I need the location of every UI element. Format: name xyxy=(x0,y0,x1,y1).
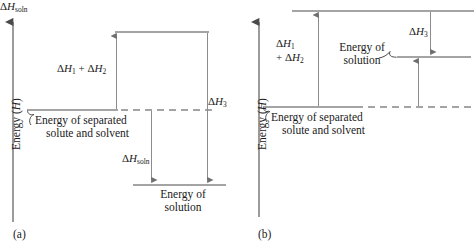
label-solution-a-line2: solution xyxy=(164,201,201,213)
label-solution-a-line1: Energy of xyxy=(160,188,205,200)
label-solution-b-line2: solution xyxy=(343,54,380,66)
panel-tag-a: (a) xyxy=(13,228,26,241)
label-separated-a: Energy of separatedsolute and solvent xyxy=(35,114,129,140)
energy-level-figure: Energy (H) ΔH1 + ΔH2 ΔH3 ΔHsoln Energy o… xyxy=(0,0,475,251)
label-dh1-dh2-a: ΔH1 + ΔH2 xyxy=(57,62,106,76)
label-separated-b: Energy of separatedsolute and solvent xyxy=(271,111,365,137)
label-separated-a-line2: solute and solvent xyxy=(35,127,129,140)
label-dh3-b: ΔH3 xyxy=(409,25,428,39)
label-separated-b-line1: Energy of separated xyxy=(271,111,363,123)
label-solution-b-line1: Energy of xyxy=(339,41,384,53)
energy-axis-label-a: Energy (H) xyxy=(10,98,22,150)
label-separated-a-line1: Energy of separated xyxy=(35,114,127,126)
label-separated-b-line2: solute and solvent xyxy=(271,124,365,137)
label-solution-a: Energy ofsolution xyxy=(153,188,213,214)
label-dhsoln-a: ΔHsoln xyxy=(122,152,149,166)
label-dh3-a: ΔH3 xyxy=(208,95,227,109)
energy-axis-label-b: Energy (H) xyxy=(256,98,268,150)
panel-tag-b: (b) xyxy=(258,228,271,241)
label-dhsoln-b: ΔHsoln xyxy=(0,0,27,14)
label-dh1-dh2-b: ΔH1+ ΔH2 xyxy=(276,37,304,65)
label-solution-b: Energy ofsolution xyxy=(333,41,391,67)
leader-separated-a xyxy=(28,111,35,125)
